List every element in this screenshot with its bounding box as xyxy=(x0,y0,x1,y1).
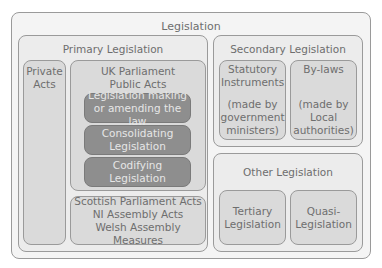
other-legislation-title: Other Legislation xyxy=(214,166,362,179)
legislation-making-line2: or amending the law xyxy=(85,102,190,128)
uk-parliament-title-line1: UK Parliament xyxy=(71,65,205,78)
primary-legislation-title: Primary Legislation xyxy=(19,43,207,56)
by-laws-box: By-laws(made byLocalauthorities) xyxy=(290,60,357,140)
consolidating-legislation-box: ConsolidatingLegislation xyxy=(84,125,191,155)
legislation-making-line1: Legislation making xyxy=(88,89,187,102)
statutory-note2: government xyxy=(220,111,284,124)
statutory-instruments-box: StatutoryInstruments(made bygovernmentmi… xyxy=(219,60,286,140)
tertiary-line2: Legislation xyxy=(224,218,281,231)
private-acts-label-line2: Acts xyxy=(24,78,65,91)
private-acts-label-line1: Private xyxy=(24,65,65,78)
statutory-note1: (made by xyxy=(227,98,277,111)
devolved-acts-box: Scottish Parliament ActsNI Assembly Acts… xyxy=(70,196,206,245)
statutory-line1: Statutory xyxy=(228,63,277,76)
codifying-line2: Legislation xyxy=(109,172,166,185)
codifying-legislation-box: CodifyingLegislation xyxy=(84,157,191,187)
codifying-line1: Codifying xyxy=(113,159,162,172)
private-acts-box: Private Acts xyxy=(23,60,66,245)
quasi-legislation-box: Quasi-Legislation xyxy=(290,190,357,245)
tertiary-legislation-box: TertiaryLegislation xyxy=(219,190,286,245)
statutory-note3: ministers) xyxy=(226,124,279,137)
legislation-title: Legislation xyxy=(12,20,370,33)
legislation-making-box: Legislation makingor amending the law xyxy=(84,93,191,123)
quasi-line1: Quasi- xyxy=(307,205,341,218)
bylaws-title: By-laws xyxy=(303,63,343,76)
bylaws-note3: authorities) xyxy=(293,124,354,137)
secondary-legislation-title: Secondary Legislation xyxy=(214,43,362,56)
welsh-measures: Welsh Assembly Measures xyxy=(71,221,205,247)
quasi-line2: Legislation xyxy=(295,218,352,231)
ni-acts: NI Assembly Acts xyxy=(93,208,184,221)
tertiary-line1: Tertiary xyxy=(233,205,272,218)
bylaws-note2: Local xyxy=(310,111,337,124)
consolidating-line2: Legislation xyxy=(109,140,166,153)
bylaws-note1: (made by xyxy=(298,98,348,111)
statutory-line2: Instruments xyxy=(221,76,284,89)
consolidating-line1: Consolidating xyxy=(102,127,174,140)
scottish-acts: Scottish Parliament Acts xyxy=(74,195,202,208)
